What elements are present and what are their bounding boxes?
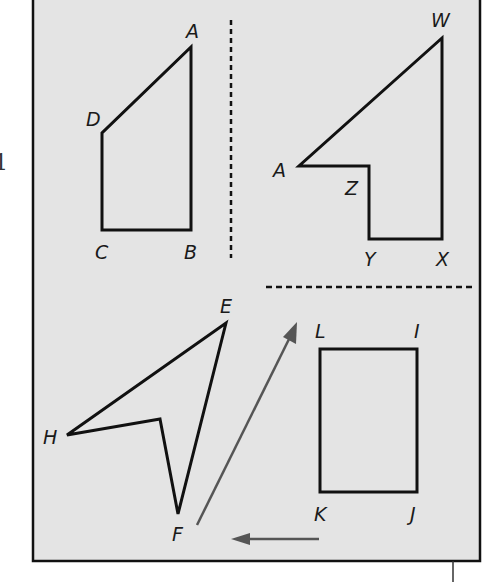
label-y: Y	[364, 248, 377, 270]
label-d: D	[86, 108, 101, 130]
label-f: F	[172, 523, 184, 545]
label-c: C	[95, 241, 109, 263]
label-h: H	[43, 426, 57, 448]
label-a-prime: A	[271, 159, 286, 181]
label-l: L	[315, 320, 326, 342]
label-x: X	[435, 248, 450, 270]
label-k: K	[314, 503, 328, 525]
label-b: B	[184, 241, 197, 263]
label-i: I	[414, 320, 420, 342]
margin-page-number: 1	[0, 150, 8, 175]
figure-panel-frame	[33, 0, 480, 561]
transformations-diagram: 1 A D C B W A Z Y X E H F L	[0, 0, 502, 582]
label-e: E	[220, 295, 232, 317]
label-a: A	[184, 20, 199, 42]
label-z: Z	[344, 177, 359, 199]
label-w: W	[431, 9, 451, 31]
